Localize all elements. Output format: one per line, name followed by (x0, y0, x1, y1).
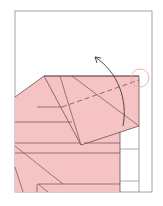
origami-diagram (0, 0, 163, 206)
